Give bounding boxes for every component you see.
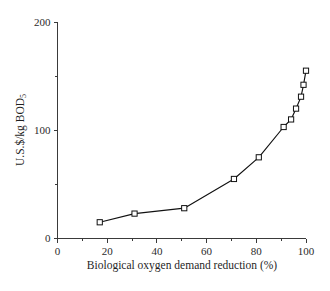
chart-plot-area: 0100200 020406080100 Biological oxygen d… xyxy=(0,0,330,291)
y-axis-tick-labels: 0100200 xyxy=(34,16,51,245)
x-axis-tick-labels: 020406080100 xyxy=(55,245,315,257)
data-point-marker xyxy=(288,117,293,122)
y-axis-ticks xyxy=(54,22,58,239)
data-series-line xyxy=(100,71,306,223)
x-tick-label: 0 xyxy=(55,245,61,257)
data-point-marker xyxy=(298,94,303,99)
x-axis-title: Biological oxygen demand reduction (%) xyxy=(87,259,278,272)
data-point-marker xyxy=(97,220,102,225)
x-tick-label: 100 xyxy=(298,245,315,257)
data-point-marker xyxy=(132,211,137,216)
data-point-marker xyxy=(293,106,298,111)
data-point-marker xyxy=(301,82,306,87)
x-tick-label: 80 xyxy=(251,245,263,257)
chart-figure: 0100200 020406080100 Biological oxygen d… xyxy=(0,0,330,291)
y-axis-title: U.S.$/kg BOD5 xyxy=(14,94,28,166)
data-point-markers xyxy=(97,68,308,225)
data-point-marker xyxy=(231,176,236,181)
data-point-marker xyxy=(281,124,286,129)
x-tick-label: 60 xyxy=(201,245,213,257)
x-axis-ticks xyxy=(58,239,307,243)
x-tick-label: 20 xyxy=(102,245,114,257)
data-point-marker xyxy=(256,155,261,160)
y-tick-label: 100 xyxy=(34,124,51,136)
x-tick-label: 40 xyxy=(151,245,163,257)
data-point-marker xyxy=(182,206,187,211)
y-tick-label: 200 xyxy=(34,16,51,28)
y-tick-label: 0 xyxy=(45,232,51,244)
data-point-marker xyxy=(303,68,308,73)
